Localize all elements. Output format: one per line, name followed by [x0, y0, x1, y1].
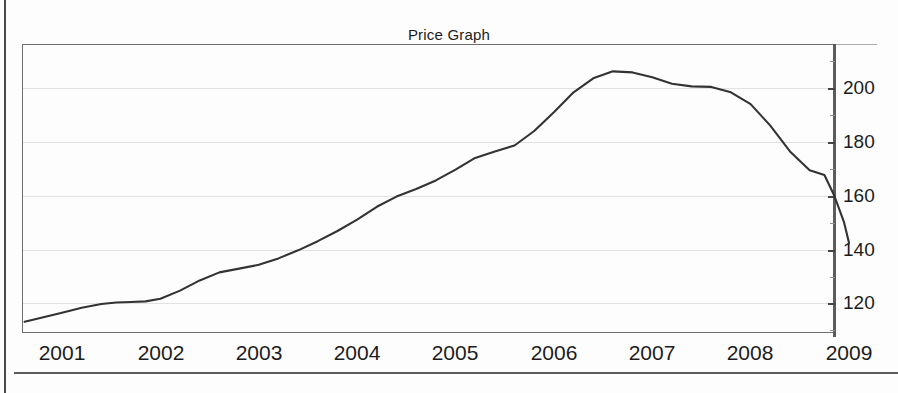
y-minor-tick-110 — [830, 330, 835, 331]
y-axis-label-180: 180 — [843, 132, 875, 151]
scanned-page: Price Graph 200 180 160 140 120 — [0, 0, 898, 393]
y-minor-tick-190 — [830, 115, 835, 116]
gridline-120 — [23, 303, 833, 304]
x-axis-underline — [14, 372, 898, 374]
x-axis-label-2001: 2001 — [39, 341, 86, 365]
gridline-200 — [23, 88, 833, 89]
x-axis-label-2009: 2009 — [826, 341, 873, 365]
x-axis-label-2007: 2007 — [629, 341, 676, 365]
y-axis-label-140: 140 — [843, 240, 875, 259]
y-tick-160 — [828, 196, 835, 198]
y-tick-120 — [828, 303, 835, 305]
y-minor-tick-150 — [830, 223, 835, 224]
x-axis-label-2005: 2005 — [432, 341, 479, 365]
gridline-180 — [23, 142, 833, 143]
x-axis-label-2008: 2008 — [727, 341, 774, 365]
x-axis-label-2003: 2003 — [236, 341, 283, 365]
price-graph-figure: Price Graph 200 180 160 140 120 — [0, 0, 898, 393]
y-tick-180 — [828, 142, 835, 144]
gridline-160 — [23, 196, 833, 197]
y-axis-label-160: 160 — [843, 186, 875, 205]
y-axis-label-120: 120 — [843, 293, 875, 312]
y-tick-140 — [828, 250, 835, 252]
x-axis-label-2006: 2006 — [531, 341, 578, 365]
y-minor-tick-130 — [830, 277, 835, 278]
x-axis-label-2002: 2002 — [138, 341, 185, 365]
y-minor-tick-210 — [830, 61, 835, 62]
gridline-140 — [23, 250, 833, 251]
x-axis-label-2004: 2004 — [334, 341, 381, 365]
y-tick-200 — [828, 88, 835, 90]
y-axis-label-200: 200 — [843, 78, 875, 97]
y-minor-tick-170 — [830, 169, 835, 170]
chart-title: Price Graph — [0, 26, 898, 43]
